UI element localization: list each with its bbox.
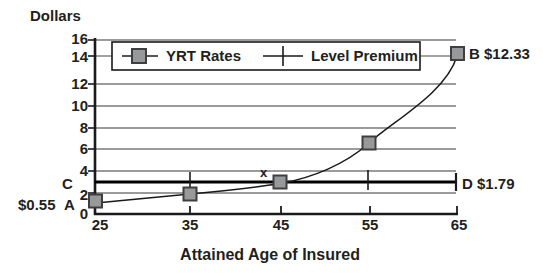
x-tick-25: 25	[92, 217, 109, 232]
annotation-a-value: $0.55	[18, 197, 56, 212]
y-axis-title: Dollars	[30, 8, 81, 23]
y-tick-16: 16	[58, 31, 88, 46]
y-tick-12: 12	[58, 76, 88, 91]
annotation-c: C	[62, 176, 73, 191]
x-tick-35: 35	[182, 217, 199, 232]
marker-square-age45	[274, 176, 287, 189]
marker-square-age25	[89, 195, 102, 208]
legend-label-level-premium: Level Premium	[311, 48, 418, 63]
annotation-crossover: x	[260, 165, 267, 180]
y-tick-14: 14	[58, 49, 88, 64]
marker-square-age55	[363, 137, 376, 150]
marker-square-age65	[451, 47, 464, 60]
x-tick-45: 45	[273, 217, 290, 232]
y-tick-8: 8	[58, 120, 88, 135]
x-tick-55: 55	[362, 217, 379, 232]
annotation-d: D $1.79	[462, 176, 515, 191]
x-axis-ticks	[190, 206, 457, 213]
annotation-a: A	[64, 197, 75, 212]
legend-yrt-square-icon	[132, 49, 146, 63]
marker-square-age35	[184, 188, 197, 201]
legend-label-yrt-rates: YRT Rates	[166, 48, 241, 63]
x-tick-65: 65	[451, 217, 468, 232]
y-tick-10: 10	[58, 98, 88, 113]
x-axis-title: Attained Age of Insured	[180, 247, 360, 262]
y-tick-6: 6	[58, 141, 88, 156]
yrt-vs-level-premium-chart: Dollars 16 14 12 10 8 6 4 2 0 25 35 45 5…	[0, 0, 543, 277]
annotation-b: B $12.33	[469, 46, 530, 61]
